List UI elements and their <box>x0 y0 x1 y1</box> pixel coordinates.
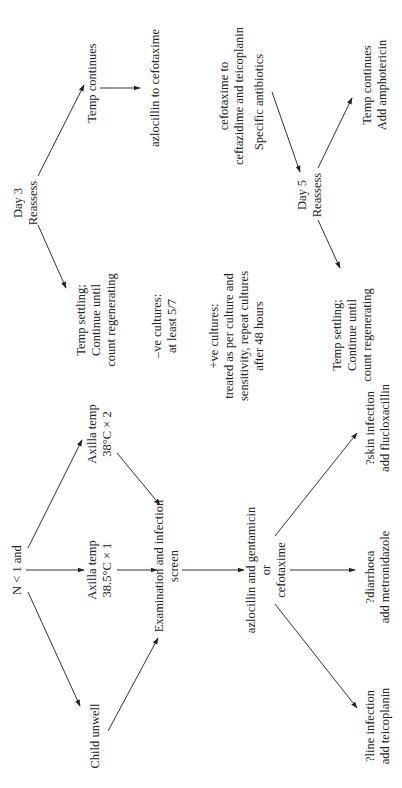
node-line-infection: ?line infection add teicoplanin <box>363 688 393 765</box>
arrow-start-to-axilla-38 <box>28 440 82 548</box>
node-axilla-385: Axilla temp 38.5°C × 1 <box>85 540 115 599</box>
node-child-unwell: Child unwell <box>88 704 103 769</box>
arrow-day3-to-continues <box>38 85 84 176</box>
arrow-specific-abx-to-day5 <box>272 92 300 172</box>
node-day3: Day 3 Reassess <box>11 181 41 225</box>
arrow-day5-to-settling <box>318 220 340 268</box>
node-neg-cultures: –ve cultures: at least 5/7 <box>150 294 180 358</box>
node-start: N < 1 and <box>10 545 25 595</box>
arrow-start-to-child-unwell <box>28 592 80 706</box>
node-day5-continues: Temp continues Add amphotericin <box>360 40 390 131</box>
node-day3-settling: Temp settling; Continue until count rege… <box>74 273 119 366</box>
arrow-child-unwell-to-exam <box>108 638 158 731</box>
node-pos-cultures: +ve cultures: treated as per culture and… <box>207 271 267 401</box>
node-diarrhoea: ?diarrhoea add metronidazole <box>363 531 393 624</box>
node-day5-settling: Temp settling; Continue until count rege… <box>330 288 375 381</box>
node-day3-continues: Temp continues <box>85 43 100 122</box>
flowchart-canvas: N < 1 and Child unwell Axilla temp 38.5°… <box>0 0 402 788</box>
arrow-day5-to-continues <box>318 98 352 168</box>
node-specific-abx: Specific antibiotics <box>252 54 267 150</box>
node-switch-azlo: azlocillin to cefotaxime <box>148 29 163 147</box>
node-skin-infection: ?skin infection add flucloxacillin <box>363 384 393 472</box>
node-day5: Day 5 Reassess <box>295 173 325 217</box>
node-switch-cefo: cefotaxime to ceftazidime and teicoplani… <box>217 27 247 165</box>
arrow-axilla-38-to-exam <box>117 453 160 505</box>
arrows-layer <box>0 0 402 788</box>
arrow-day3-to-settling <box>38 225 66 288</box>
node-axilla-38: Axilla temp 38°C × 2 <box>85 404 115 463</box>
node-initial-abx: azlocillin and gentamicin or cefotaxime <box>244 507 289 633</box>
node-exam: Examination and infection screen <box>152 500 182 633</box>
